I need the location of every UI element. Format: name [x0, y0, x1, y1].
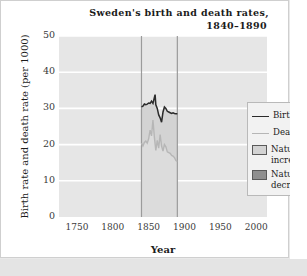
y-axis-ticks: 01020304050: [27, 36, 55, 217]
chart-title-block: Sweden's birth and death rates, 1840–189…: [83, 7, 275, 31]
chart-svg: [59, 36, 267, 217]
x-tick-label: 2000: [245, 222, 268, 232]
y-tick-label: 0: [31, 210, 55, 221]
y-tick-label: 30: [31, 101, 55, 112]
plot-area: Birth rate Death rate Natural increase N…: [59, 36, 267, 217]
legend-line-icon-birth: [252, 116, 269, 117]
bottom-margin-strip: [0, 259, 307, 276]
page-title: Sweden's birth and death rates,: [83, 7, 275, 18]
chart-subtitle: 1840–1890: [83, 20, 275, 31]
y-tick-label: 50: [31, 29, 55, 40]
legend-swatch-icon-decrease: [252, 170, 267, 180]
x-tick-label: 1950: [209, 222, 232, 232]
y-tick-label: 20: [31, 138, 55, 149]
right-margin-strip: [290, 0, 307, 259]
legend-line-icon-death: [252, 133, 269, 134]
y-tick-label: 10: [31, 174, 55, 185]
y-tick-label: 40: [31, 65, 55, 76]
x-axis-label: Year: [59, 244, 267, 255]
legend-swatch-icon-increase: [252, 145, 267, 155]
screenshot-root: Sweden's birth and death rates, 1840–189…: [0, 0, 307, 276]
x-tick-label: 1750: [65, 222, 88, 232]
x-tick-label: 1900: [173, 222, 196, 232]
x-axis-ticks: 175018001850190019502000: [59, 220, 267, 236]
x-tick-label: 1800: [101, 222, 124, 232]
chart-card: Sweden's birth and death rates, 1840–189…: [0, 0, 289, 258]
x-tick-label: 1850: [137, 222, 160, 232]
